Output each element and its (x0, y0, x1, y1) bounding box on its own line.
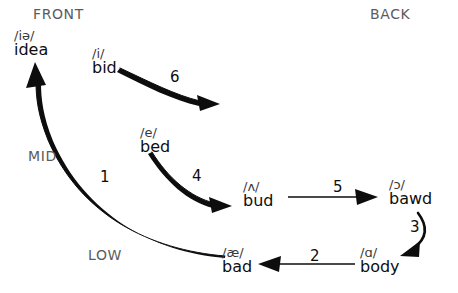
vowel-node-body: /ɑ/ body (360, 246, 400, 276)
vowel-node-bid: /i/ bid (92, 47, 117, 77)
region-label-mid: MID (28, 148, 57, 164)
vowel-word-bid: bid (92, 60, 117, 76)
arrow-4-bed-to-bud (148, 152, 232, 213)
vowel-node-bed: /e/ bed (140, 126, 170, 156)
arrow-number-4: 4 (192, 167, 202, 185)
arrow-number-1: 1 (100, 168, 110, 186)
arrow-6-bid-to-bud (117, 68, 220, 111)
arrow-number-5: 5 (333, 178, 343, 196)
vowel-word-bud: bud (243, 193, 273, 209)
vowel-word-bed: bed (140, 139, 170, 155)
region-label-low: LOW (88, 247, 122, 263)
vowel-word-idea: idea (14, 42, 48, 58)
vowel-word-body: body (360, 259, 400, 275)
region-label-back: BACK (370, 6, 410, 22)
arrow-number-3: 3 (410, 218, 420, 236)
vowel-word-bad: bad (222, 259, 252, 275)
vowel-shift-diagram: FRONT BACK MID LOW /iə/ idea /i/ bid /e/… (0, 0, 458, 293)
arrow-2-body-to-bad (258, 256, 355, 272)
vowel-node-bad: /æ/ bad (222, 246, 252, 276)
arrow-number-2: 2 (310, 247, 320, 265)
vowel-node-bawd: /ɔ/ bawd (389, 178, 432, 208)
vowel-node-idea: /iə/ idea (14, 29, 48, 59)
arrow-number-6: 6 (170, 68, 180, 86)
vowel-word-bawd: bawd (389, 191, 432, 207)
vowel-node-bud: /ʌ/ bud (243, 180, 273, 210)
region-label-front: FRONT (33, 6, 84, 22)
